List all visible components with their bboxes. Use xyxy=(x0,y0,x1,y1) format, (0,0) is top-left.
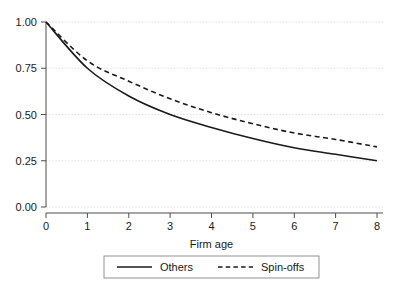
x-tick-label-0: 0 xyxy=(43,220,49,232)
x-tick-label-6: 6 xyxy=(291,220,297,232)
x-tick-label-1: 1 xyxy=(84,220,90,232)
x-tick-label-7: 7 xyxy=(333,220,339,232)
y-tick-label-0.25: 0.25 xyxy=(16,155,37,167)
y-tick-label-0.00: 0.00 xyxy=(16,201,37,213)
x-tick-label-4: 4 xyxy=(208,220,214,232)
x-tick-label-8: 8 xyxy=(374,220,380,232)
series-line-others xyxy=(46,22,377,161)
data-series-group xyxy=(46,22,377,161)
x-tick-label-2: 2 xyxy=(126,220,132,232)
gridlines xyxy=(46,22,383,207)
x-axis: 0 1 2 3 4 5 6 7 8 Firm age xyxy=(43,213,383,250)
y-tick-label-0.50: 0.50 xyxy=(16,109,37,121)
y-axis: 1.00 0.75 0.50 0.25 0.00 xyxy=(16,16,46,213)
survival-curve-figure: 1.00 0.75 0.50 0.25 0.00 0 1 2 3 4 5 6 7 xyxy=(0,0,395,287)
x-tick-label-3: 3 xyxy=(167,220,173,232)
legend-label-others: Others xyxy=(160,261,194,273)
y-tick-label-0.75: 0.75 xyxy=(16,62,37,74)
chart-canvas: 1.00 0.75 0.50 0.25 0.00 0 1 2 3 4 5 6 7 xyxy=(0,0,395,287)
y-tick-label-1.00: 1.00 xyxy=(16,16,37,28)
legend: Others Spin-offs xyxy=(104,256,319,278)
x-tick-label-5: 5 xyxy=(250,220,256,232)
legend-label-spin-offs: Spin-offs xyxy=(261,261,305,273)
x-axis-title: Firm age xyxy=(190,238,233,250)
